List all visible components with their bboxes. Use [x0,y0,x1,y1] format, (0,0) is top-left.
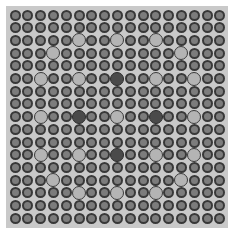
normal-circle [112,124,123,135]
normal-circle [10,48,21,59]
normal-circle [202,111,213,122]
normal-circle [163,10,174,21]
normal-circle [214,162,225,173]
normal-circle [176,73,187,84]
normal-circle [202,10,213,21]
normal-circle [163,98,174,109]
normal-circle [125,48,136,59]
normal-circle [22,213,33,224]
normal-circle [86,60,97,71]
normal-circle [22,149,33,160]
normal-circle [189,35,200,46]
normal-circle [189,200,200,211]
normal-circle [22,73,33,84]
light-circle [34,110,48,124]
normal-circle [99,149,110,160]
normal-circle [150,124,161,135]
normal-circle [86,98,97,109]
normal-circle [214,200,225,211]
normal-circle [163,111,174,122]
normal-circle [61,60,72,71]
normal-circle [35,162,46,173]
normal-circle [202,22,213,33]
normal-circle [35,10,46,21]
normal-circle [176,124,187,135]
normal-circle [214,124,225,135]
normal-circle [74,137,85,148]
normal-circle [214,137,225,148]
normal-circle [48,162,59,173]
normal-circle [202,137,213,148]
light-circle [110,186,124,200]
normal-circle [99,200,110,211]
normal-circle [125,10,136,21]
normal-circle [86,86,97,97]
light-circle [72,186,86,200]
normal-circle [74,200,85,211]
normal-circle [22,137,33,148]
normal-circle [202,200,213,211]
normal-circle [163,200,174,211]
normal-circle [86,213,97,224]
normal-circle [22,111,33,122]
normal-circle [163,213,174,224]
normal-circle [138,200,149,211]
normal-circle [22,200,33,211]
normal-circle [202,124,213,135]
normal-circle [61,111,72,122]
normal-circle [176,35,187,46]
normal-circle [163,48,174,59]
normal-circle [189,187,200,198]
normal-circle [61,200,72,211]
normal-circle [138,73,149,84]
normal-circle [150,86,161,97]
normal-circle [202,98,213,109]
normal-circle [189,98,200,109]
normal-circle [61,162,72,173]
normal-circle [61,73,72,84]
normal-circle [10,111,21,122]
normal-circle [138,10,149,21]
normal-circle [61,187,72,198]
normal-circle [202,86,213,97]
normal-circle [10,175,21,186]
normal-circle [163,187,174,198]
normal-circle [202,35,213,46]
normal-circle [138,35,149,46]
normal-circle [99,22,110,33]
normal-circle [99,60,110,71]
light-circle [110,110,124,124]
light-circle [187,72,201,86]
normal-circle [163,73,174,84]
normal-circle [10,60,21,71]
normal-circle [176,10,187,21]
normal-circle [112,98,123,109]
normal-circle [214,149,225,160]
normal-circle [138,213,149,224]
normal-circle [99,86,110,97]
normal-circle [61,124,72,135]
normal-circle [163,175,174,186]
dark-circle [110,72,124,86]
normal-circle [150,10,161,21]
normal-circle [202,175,213,186]
light-circle [72,148,86,162]
dark-circle [110,148,124,162]
normal-circle [35,60,46,71]
normal-circle [214,98,225,109]
normal-circle [163,22,174,33]
normal-circle [61,22,72,33]
normal-circle [22,35,33,46]
normal-circle [61,35,72,46]
normal-circle [10,213,21,224]
normal-circle [10,187,21,198]
normal-circle [10,137,21,148]
normal-circle [86,10,97,21]
light-circle [34,148,48,162]
normal-circle [61,10,72,21]
normal-circle [99,187,110,198]
normal-circle [189,10,200,21]
normal-circle [214,86,225,97]
normal-circle [214,175,225,186]
normal-circle [214,60,225,71]
